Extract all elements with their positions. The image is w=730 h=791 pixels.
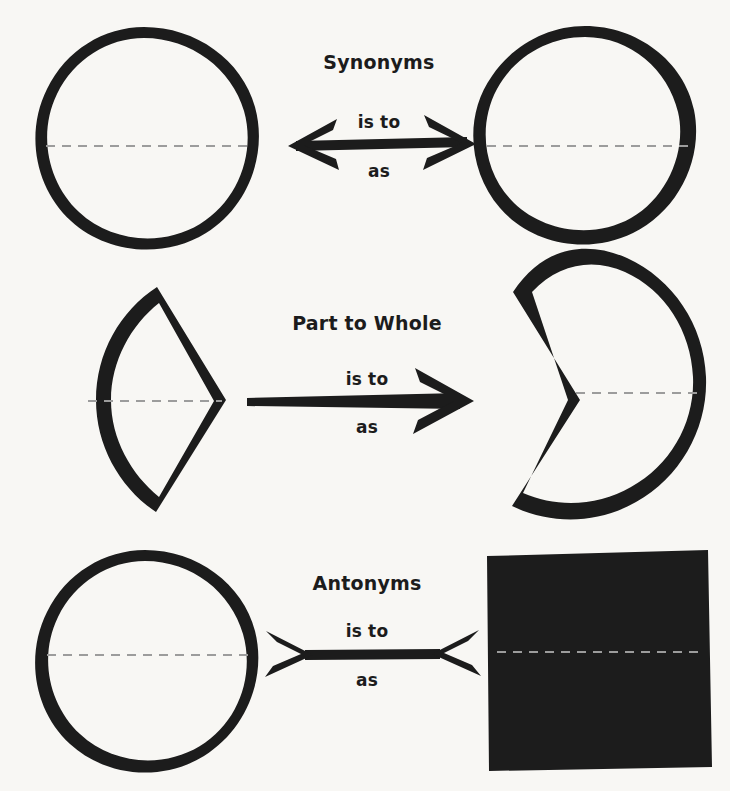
relation-top-row3: is to xyxy=(346,621,389,641)
analogy-diagram: Synonyms is to as xyxy=(0,0,730,791)
row-title-synonyms: Synonyms xyxy=(323,51,434,73)
row-title-part-to-whole: Part to Whole xyxy=(292,312,442,334)
row-title-antonyms: Antonyms xyxy=(313,572,422,594)
relation-bottom-row2: as xyxy=(356,417,378,437)
relation-bottom-row1: as xyxy=(368,161,390,181)
relation-top-row2: is to xyxy=(346,369,389,389)
relation-bottom-row3: as xyxy=(356,670,378,690)
diagram-canvas: Synonyms is to as xyxy=(0,0,730,791)
shape-square-right-row3 xyxy=(487,550,712,771)
relation-top-row1: is to xyxy=(358,112,401,132)
